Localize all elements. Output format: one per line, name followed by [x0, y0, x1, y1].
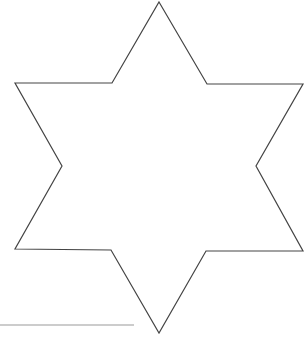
star-outline — [15, 2, 303, 333]
star-drawing — [0, 0, 305, 344]
